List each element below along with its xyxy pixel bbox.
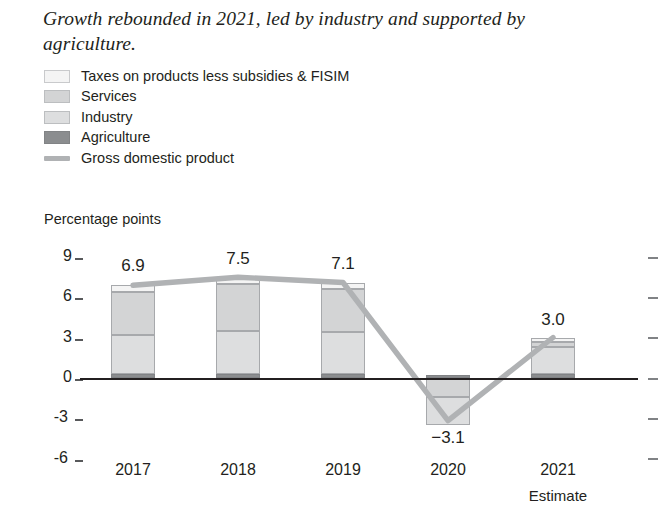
bar-segment-services[interactable] (216, 284, 260, 331)
ytick-mark-6 (75, 298, 83, 300)
bar-segment-services[interactable] (321, 289, 365, 332)
zero-baseline (80, 378, 638, 380)
ytick-label-neg6: -6 (34, 449, 68, 467)
xtick-label-2018: 2018 (220, 461, 256, 479)
ytick-mark-9 (75, 258, 83, 260)
plot-area: 9 6 3 0 -3 -6 (0, 0, 665, 517)
chart-page: { "title": "Growth rebounded in 2021, le… (0, 0, 665, 517)
value-label-2021: 3.0 (541, 310, 565, 330)
bar-segment-taxes[interactable] (111, 285, 155, 292)
ytick-mark-neg3 (75, 419, 83, 421)
value-label-2017: 6.9 (121, 256, 145, 276)
bar-segment-industry[interactable] (531, 347, 575, 374)
xtick-label-2020: 2020 (430, 461, 466, 479)
xtick-label-2017: 2017 (115, 461, 151, 479)
bar-segment-industry[interactable] (111, 335, 155, 374)
ytick-label-3: 3 (38, 328, 72, 346)
ytick-mark-right-neg3 (648, 418, 658, 420)
xtick-sublabel-2021-estimate: Estimate (529, 487, 587, 504)
value-label-2018: 7.5 (226, 249, 250, 269)
ytick-mark-right-0 (648, 378, 658, 380)
ytick-mark-right-9 (648, 257, 658, 259)
bar-segment-industry[interactable] (426, 397, 470, 425)
ytick-mark-right-6 (648, 297, 658, 299)
bar-segment-taxes[interactable] (216, 277, 260, 284)
bar-segment-taxes[interactable] (321, 283, 365, 290)
ytick-mark-3 (75, 339, 83, 341)
ytick-label-neg3: -3 (34, 408, 68, 426)
bar-segment-industry[interactable] (321, 332, 365, 374)
ytick-label-0: 0 (38, 368, 72, 386)
xtick-label-2021: 2021 (540, 461, 576, 479)
value-label-2019: 7.1 (331, 254, 355, 274)
ytick-label-6: 6 (38, 287, 72, 305)
bar-segment-services[interactable] (426, 379, 470, 398)
xtick-label-2019: 2019 (325, 461, 361, 479)
ytick-mark-neg6 (75, 460, 83, 462)
bar-segment-industry[interactable] (216, 331, 260, 374)
ytick-mark-right-3 (648, 337, 658, 339)
value-label-2020: −3.1 (431, 428, 465, 448)
bar-segment-services[interactable] (111, 292, 155, 335)
ytick-mark-right-neg6 (648, 458, 658, 460)
ytick-label-9: 9 (38, 247, 72, 265)
